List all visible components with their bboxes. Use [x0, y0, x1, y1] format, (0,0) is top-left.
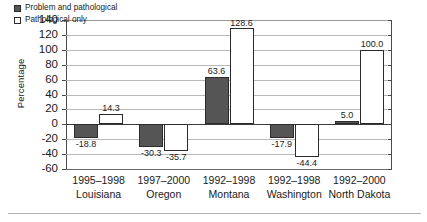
bar [295, 124, 319, 157]
x-axis-category: 1992–2000North Dakota [321, 174, 398, 201]
bar-value-label: 128.6 [222, 18, 262, 28]
bar-value-label: 100.0 [352, 39, 392, 49]
legend-swatch-icon [14, 17, 21, 24]
y-tick-label: 0 [52, 119, 58, 131]
y-tick-label: 20 [45, 104, 58, 116]
bar-value-label: -18.8 [66, 139, 106, 149]
legend-label: Problem and pathological [25, 4, 117, 13]
legend-item: Pathological only [14, 15, 117, 26]
bar-value-label: 14.3 [91, 103, 131, 113]
gridline [66, 169, 392, 170]
footer-divider [8, 213, 421, 214]
y-tick-label: 120 [39, 29, 58, 41]
y-axis-tick-labels: 140120100806040200-20-40-60 [0, 20, 62, 169]
y-tick-label: -60 [41, 163, 58, 175]
y-tick-label: 80 [45, 59, 58, 71]
legend-item: Problem and pathological [14, 3, 117, 14]
chart-legend: Problem and pathologicalPathological onl… [14, 3, 117, 27]
y-axis-tick [62, 169, 66, 170]
y-tick-label: -40 [41, 148, 58, 160]
bar [205, 77, 229, 124]
legend-label: Pathological only [25, 16, 87, 25]
bar [139, 124, 163, 147]
plot-area: -18.814.3-30.3-35.763.6128.6-17.9-44.45.… [66, 20, 392, 169]
bar [164, 124, 188, 151]
legend-swatch-icon [14, 5, 21, 12]
bar [99, 114, 123, 125]
bar [74, 124, 98, 138]
bar-value-label: -44.4 [287, 158, 327, 168]
category-place: North Dakota [321, 188, 398, 202]
category-period: 1992–2000 [321, 174, 398, 188]
bar-group: -18.814.3-30.3-35.763.6128.6-17.9-44.45.… [66, 20, 392, 169]
y-tick-label: 100 [39, 44, 58, 56]
y-tick-label: 40 [45, 89, 58, 101]
bar [270, 124, 294, 137]
bar [230, 28, 254, 124]
x-axis-category-labels: 1995–1998Louisiana1997–2000Oregon1992–19… [66, 174, 392, 208]
chart-figure: Percentage 140120100806040200-20-40-60 -… [0, 0, 427, 222]
bar [335, 121, 359, 125]
y-tick-label: -20 [41, 133, 58, 145]
bar-value-label: -35.7 [156, 152, 196, 162]
y-axis-tick-right [388, 169, 392, 170]
y-tick-label: 60 [45, 74, 58, 86]
bar [360, 50, 384, 125]
